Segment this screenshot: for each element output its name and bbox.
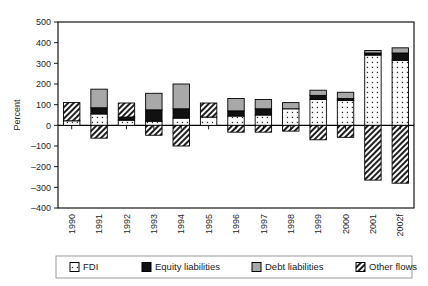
axis-titles: Percent <box>12 99 22 131</box>
legend-other-flows-swatch <box>356 263 365 272</box>
bar-segment <box>337 92 353 98</box>
bar-group <box>118 103 134 129</box>
bar-segment <box>63 121 79 126</box>
x-tick-label: 1998 <box>286 214 296 234</box>
legend-equity-swatch <box>142 263 151 272</box>
legend-item-label[interactable]: FDI <box>83 261 98 272</box>
x-tick-label: 1990 <box>67 214 77 234</box>
bar-group <box>91 89 107 138</box>
legend-item-label[interactable]: Debt liabilities <box>265 261 324 272</box>
bar-segment <box>283 103 299 109</box>
bar-segment <box>118 120 134 125</box>
bar-segment <box>310 95 326 99</box>
legend-fdi-swatch <box>70 263 79 272</box>
legend-debt-swatch <box>252 263 261 272</box>
bar-segment <box>200 117 216 125</box>
bar-group <box>200 103 216 129</box>
bar-segment <box>310 100 326 126</box>
legend-item-label[interactable]: Other flows <box>369 261 417 272</box>
bar-segment <box>283 109 299 126</box>
bar-group <box>255 100 271 133</box>
bar-group <box>228 98 244 132</box>
bar-group <box>392 48 408 183</box>
bar-group <box>63 103 79 130</box>
chart-background <box>0 0 428 286</box>
bar-segment <box>337 101 353 126</box>
x-tick-label: 1991 <box>94 214 104 234</box>
y-axis-title: Percent <box>12 99 22 131</box>
bar-segment <box>365 55 381 125</box>
bar-segment <box>200 103 216 117</box>
bar-segment <box>228 98 244 110</box>
bar-segment <box>91 89 107 108</box>
x-tick-label: 1999 <box>313 214 323 234</box>
stacked-bar-chart: 5004003002001000–100–200–300–400 1990199… <box>0 0 428 286</box>
y-tick-label: 0 <box>46 121 51 131</box>
bar-group <box>283 103 299 132</box>
y-tick-label: 400 <box>36 38 51 48</box>
bar-segment <box>228 111 244 116</box>
y-tick-label: 200 <box>36 79 51 89</box>
bar-segment <box>255 100 271 109</box>
bar-segment <box>392 60 408 125</box>
y-tick-label: –200 <box>31 162 51 172</box>
bar-group <box>337 92 353 137</box>
bar-segment <box>255 109 271 115</box>
bar-group <box>146 93 162 135</box>
x-tick-label: 1996 <box>231 214 241 234</box>
x-tick-label: 1994 <box>176 214 186 234</box>
bar-segment <box>228 116 244 125</box>
x-tick-label: 1993 <box>149 214 159 234</box>
bar-segment <box>392 53 408 60</box>
bar-segment <box>365 51 381 53</box>
bar-segment <box>118 103 134 117</box>
y-tick-label: 100 <box>36 100 51 110</box>
bar-segment <box>365 125 381 180</box>
y-tick-label: –100 <box>31 141 51 151</box>
bar-segment <box>118 117 134 120</box>
bar-group <box>310 90 326 140</box>
bar-segment <box>146 121 162 125</box>
bar-segment <box>310 90 326 95</box>
y-tick-label: 500 <box>36 17 51 27</box>
chart-container: 5004003002001000–100–200–300–400 1990199… <box>0 0 428 286</box>
bar-segment <box>173 84 189 109</box>
bar-group <box>365 51 381 181</box>
bar-segment <box>173 109 189 118</box>
y-tick-label: 300 <box>36 59 51 69</box>
bar-segment <box>146 93 162 110</box>
x-tick-label: 1992 <box>122 214 132 234</box>
chart-legend: FDIEquity liabilitiesDebt liabilitiesOth… <box>56 256 417 278</box>
y-tick-label: –400 <box>31 203 51 213</box>
legend-item-label[interactable]: Equity liabilities <box>155 261 220 272</box>
y-tick-label: –300 <box>31 183 51 193</box>
x-tick-label: 2000 <box>341 214 351 234</box>
bar-segment <box>91 108 107 114</box>
bar-segment <box>146 110 162 121</box>
bar-segment <box>392 125 408 183</box>
bar-segment <box>173 118 189 125</box>
bar-segment <box>392 48 408 53</box>
x-tick-label: 2002f <box>396 214 406 237</box>
bar-segment <box>63 103 79 121</box>
bar-group <box>173 84 189 146</box>
bar-segment <box>255 115 271 125</box>
bar-segment <box>91 114 107 125</box>
x-tick-label: 1995 <box>204 214 214 234</box>
x-tick-label: 1997 <box>259 214 269 234</box>
x-tick-label: 2001 <box>368 214 378 234</box>
